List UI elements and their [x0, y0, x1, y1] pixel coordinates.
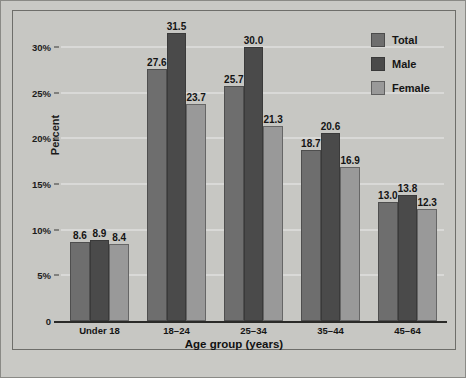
x-category-label: Under 18	[79, 325, 120, 336]
legend-item-total[interactable]: Total	[371, 29, 430, 50]
bar[interactable]: 12.3	[417, 209, 437, 321]
y-tick-label: 30%	[17, 41, 51, 52]
x-axis-line	[54, 321, 447, 323]
bar-value-label: 25.7	[224, 74, 243, 85]
bar-value-label: 20.6	[321, 121, 340, 132]
y-tick-mark	[54, 183, 59, 184]
y-tick-label: 0	[17, 316, 51, 327]
bar-value-label: 18.7	[301, 138, 320, 149]
bar[interactable]: 8.9	[90, 240, 110, 321]
bar-value-label: 23.7	[186, 92, 205, 103]
bar-value-label: 8.6	[73, 230, 87, 241]
bar-value-label: 12.3	[417, 197, 436, 208]
bar[interactable]: 23.7	[186, 104, 206, 321]
x-category-label: 45–64	[394, 325, 420, 336]
legend-swatch	[371, 81, 385, 95]
bar[interactable]: 13.0	[378, 202, 398, 321]
bar-value-label: 13.8	[398, 183, 417, 194]
bar-value-label: 8.9	[93, 228, 107, 239]
bar-group: 27.631.523.7	[147, 24, 206, 321]
x-category-label: 25–34	[240, 325, 266, 336]
bar-value-label: 8.4	[112, 232, 126, 243]
bar-value-label: 21.3	[263, 114, 282, 125]
bar[interactable]: 21.3	[263, 126, 283, 321]
x-axis-title: Age group (years)	[13, 338, 455, 350]
x-category-label: 35–44	[317, 325, 343, 336]
chart-figure: Percent 05%10%15%20%25%30% 8.68.98.427.6…	[0, 0, 466, 378]
x-category-label: 18–24	[163, 325, 189, 336]
bar-value-label: 13.0	[378, 190, 397, 201]
legend-item-male[interactable]: Male	[371, 53, 430, 74]
bar-value-label: 27.6	[147, 57, 166, 68]
bar-group: 18.720.616.9	[301, 24, 360, 321]
bar[interactable]: 20.6	[321, 133, 341, 321]
legend-label: Male	[392, 58, 416, 70]
bar[interactable]: 30.0	[244, 47, 264, 321]
bar[interactable]: 27.6	[147, 69, 167, 321]
y-tick-label: 10%	[17, 224, 51, 235]
bar[interactable]: 13.8	[398, 195, 418, 321]
bar-value-label: 31.5	[167, 21, 186, 32]
bar-value-label: 30.0	[244, 35, 263, 46]
y-tick-mark	[54, 138, 59, 139]
y-tick-mark	[54, 46, 59, 47]
bar[interactable]: 25.7	[224, 86, 244, 321]
bar-group: 8.68.98.4	[70, 24, 129, 321]
bar[interactable]: 31.5	[167, 33, 187, 321]
y-tick-label: 5%	[17, 270, 51, 281]
y-tick-mark	[54, 275, 59, 276]
legend-label: Total	[392, 34, 417, 46]
bar-group: 25.730.021.3	[224, 24, 283, 321]
legend-label: Female	[392, 82, 430, 94]
plot-frame: Percent 05%10%15%20%25%30% 8.68.98.427.6…	[12, 10, 456, 350]
bar[interactable]: 18.7	[301, 150, 321, 321]
y-tick-label: 25%	[17, 87, 51, 98]
legend-swatch	[371, 33, 385, 47]
y-tick-label: 15%	[17, 178, 51, 189]
bar[interactable]: 8.4	[109, 244, 129, 321]
bar-value-label: 16.9	[340, 155, 359, 166]
bar[interactable]: 16.9	[340, 167, 360, 321]
legend-swatch	[371, 57, 385, 71]
chart-legend: TotalMaleFemale	[371, 29, 430, 101]
legend-item-female[interactable]: Female	[371, 77, 430, 98]
y-tick-mark	[54, 92, 59, 93]
y-tick-mark	[54, 229, 59, 230]
y-tick-label: 20%	[17, 133, 51, 144]
bar[interactable]: 8.6	[70, 242, 90, 321]
